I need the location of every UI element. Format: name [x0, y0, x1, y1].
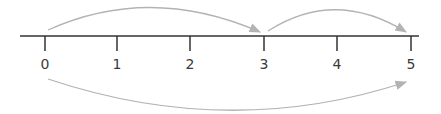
tick-label-3: 3 — [260, 56, 269, 72]
tick-label-2: 2 — [186, 56, 195, 72]
tick-label-5: 5 — [407, 56, 416, 72]
jump-arc-0-to-5-below — [48, 79, 406, 110]
tick-marks — [45, 36, 411, 51]
tick-label-0: 0 — [41, 56, 50, 72]
number-line-diagram — [0, 0, 441, 114]
jump-arc-3-to-5 — [268, 10, 406, 32]
tick-label-4: 4 — [333, 56, 342, 72]
jump-arc-0-to-3 — [48, 7, 260, 32]
tick-label-1: 1 — [113, 56, 122, 72]
